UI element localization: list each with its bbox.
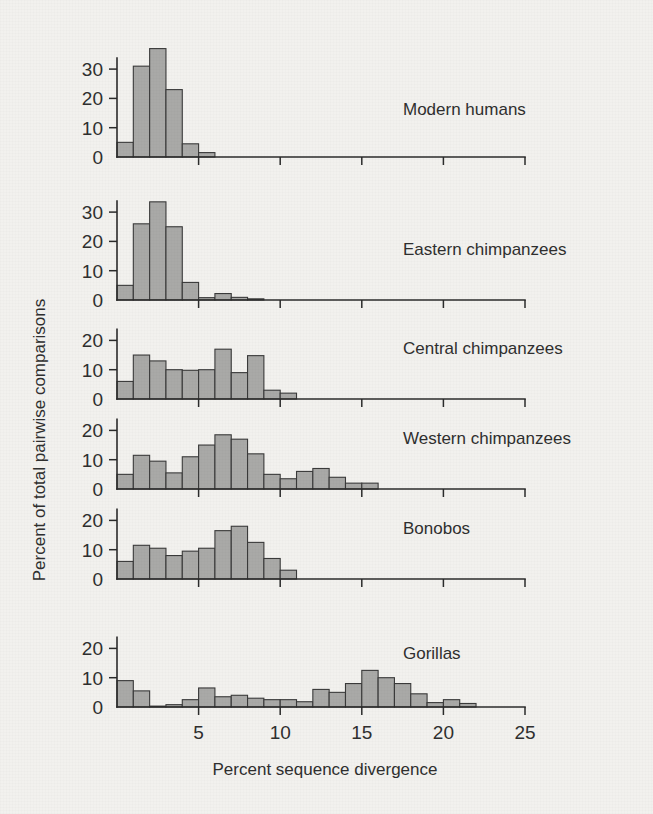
histogram-bar [231, 526, 247, 579]
y-tick-label: 0 [92, 479, 103, 500]
panel-central-chimpanzees: 01020Central chimpanzees [82, 329, 563, 410]
histogram-bar [362, 483, 378, 489]
histogram-bar [133, 66, 149, 157]
histogram-bar [150, 461, 166, 489]
panel-label: Modern humans [403, 100, 526, 119]
histogram-bar [182, 700, 198, 707]
histogram-bar [133, 545, 149, 579]
histogram-bar [248, 356, 264, 399]
histogram-bar [166, 473, 182, 489]
histogram-bar [182, 370, 198, 399]
y-tick-label: 20 [82, 88, 103, 109]
y-tick-label: 0 [92, 147, 103, 168]
y-tick-label: 0 [92, 697, 103, 718]
panel-gorillas: 01020Gorillas [82, 637, 525, 718]
y-tick-label: 10 [82, 118, 103, 139]
histogram-bar [182, 144, 198, 157]
histogram-bar [117, 561, 133, 579]
histogram-bar [199, 370, 215, 399]
histogram-bar [215, 697, 231, 707]
histogram-bar [199, 688, 215, 707]
histogram-bar [182, 282, 198, 300]
y-tick-label: 20 [82, 510, 103, 531]
histogram-bar [215, 435, 231, 489]
histogram-bar [117, 474, 133, 489]
y-tick-label: 10 [82, 360, 103, 381]
histogram-bar [378, 678, 394, 707]
y-tick-label: 20 [82, 330, 103, 351]
panel-modern-humans: 0102030Modern humans [82, 49, 526, 168]
histogram-bar [199, 445, 215, 489]
histogram-bar [280, 570, 296, 579]
histogram-bar [166, 370, 182, 399]
histogram-bar [264, 700, 280, 707]
histogram-bar [215, 349, 231, 399]
histogram-bar [166, 556, 182, 579]
histogram-bar [297, 471, 313, 489]
histogram-bar [248, 698, 264, 707]
histogram-bar [117, 381, 133, 399]
histogram-bar [443, 700, 459, 707]
histogram-bar [264, 558, 280, 579]
panel-bonobos: 01020Bonobos [82, 509, 525, 590]
histogram-bar [133, 691, 149, 707]
histogram-bar [329, 477, 345, 489]
y-tick-label: 20 [82, 420, 103, 441]
histogram-bar [231, 695, 247, 707]
y-tick-label: 0 [92, 569, 103, 590]
histogram-bar [280, 700, 296, 707]
panel-western-chimpanzees: 01020Western chimpanzees [82, 419, 571, 500]
y-tick-label: 10 [82, 540, 103, 561]
y-tick-label: 0 [92, 290, 103, 311]
panel-label: Central chimpanzees [403, 339, 563, 358]
histogram-bar [248, 542, 264, 579]
panel-eastern-chimpanzees: 0102030Eastern chimpanzees [82, 201, 567, 311]
histogram-bar [329, 692, 345, 707]
histogram-bar [280, 479, 296, 489]
x-tick-label: 5 [193, 722, 204, 743]
y-tick-label: 20 [82, 231, 103, 252]
figure-container: 0102030Modern humans0102030Eastern chimp… [0, 0, 653, 814]
x-axis-title: Percent sequence divergence [213, 760, 438, 779]
y-tick-label: 10 [82, 668, 103, 689]
x-tick-label: 15 [351, 722, 372, 743]
histogram-bar [411, 694, 427, 707]
histogram-bar [117, 681, 133, 707]
panel-label: Eastern chimpanzees [403, 240, 566, 259]
histogram-bar [264, 390, 280, 399]
histogram-bar [133, 455, 149, 489]
y-tick-label: 0 [92, 389, 103, 410]
histogram-bar [215, 531, 231, 579]
y-axis-title: Percent of total pairwise comparisons [30, 299, 49, 582]
histogram-bar [133, 355, 149, 399]
histogram-bar [313, 689, 329, 707]
histogram-bar [394, 684, 410, 707]
histogram-bar [248, 454, 264, 489]
histogram-bar [166, 90, 182, 157]
histogram-bar [182, 457, 198, 489]
histogram-bar [150, 49, 166, 157]
histogram-bar [117, 142, 133, 157]
histogram-figure: 0102030Modern humans0102030Eastern chimp… [0, 0, 653, 814]
x-tick-label: 10 [270, 722, 291, 743]
histogram-bar [199, 548, 215, 579]
histogram-bar [150, 361, 166, 399]
histogram-bar [117, 285, 133, 300]
y-tick-label: 30 [82, 59, 103, 80]
y-tick-label: 10 [82, 261, 103, 282]
histogram-bar [231, 439, 247, 489]
histogram-bar [345, 684, 361, 707]
x-tick-label: 20 [433, 722, 454, 743]
histogram-bar [280, 393, 296, 399]
panel-label: Gorillas [403, 644, 461, 663]
histogram-bar [133, 224, 149, 300]
histogram-bar [166, 227, 182, 300]
histogram-bar [313, 468, 329, 489]
y-tick-label: 20 [82, 638, 103, 659]
histogram-bar [182, 551, 198, 579]
histogram-bar [345, 483, 361, 489]
histogram-bar [150, 548, 166, 579]
panel-label: Bonobos [403, 519, 470, 538]
y-tick-label: 10 [82, 450, 103, 471]
x-tick-label: 25 [514, 722, 535, 743]
